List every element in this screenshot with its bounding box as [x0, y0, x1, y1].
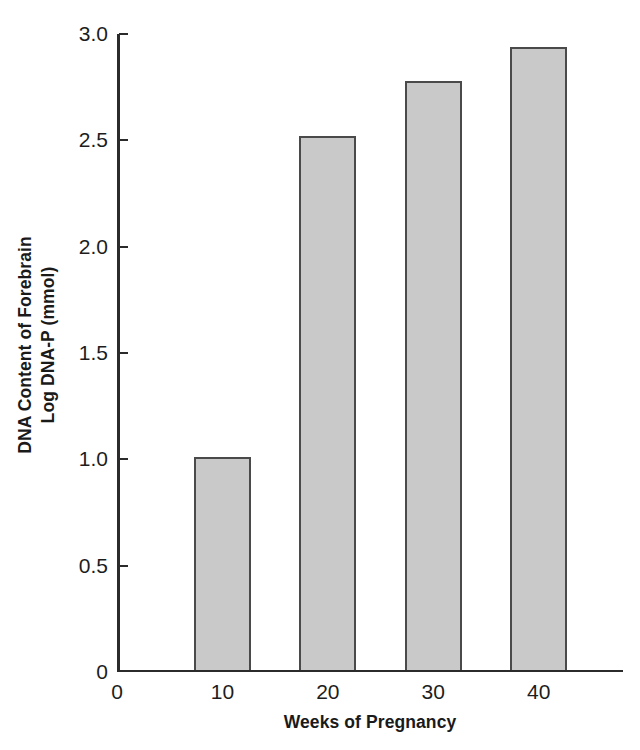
- bar: [299, 136, 356, 670]
- x-tick-label: 40: [527, 680, 550, 704]
- y-tick-label: 0: [96, 660, 108, 684]
- x-tick-label: 10: [211, 680, 234, 704]
- y-tick-mark: [119, 352, 128, 354]
- y-tick-label: 0.5: [79, 554, 108, 578]
- x-tick-0: 0: [116, 661, 118, 672]
- x-axis-title: Weeks of Pregnancy: [117, 712, 623, 733]
- y-tick-mark: [119, 458, 128, 460]
- y-tick-label: 2.0: [79, 235, 108, 259]
- y-tick-mark: [119, 246, 128, 248]
- y-axis-title-line-2: Log DNA-P (mmol): [37, 236, 60, 454]
- y-axis-title: DNA Content of Forebrain Log DNA-P (mmol…: [4, 0, 70, 690]
- y-tick-mark: [119, 565, 128, 567]
- bar-chart-figure: DNA Content of Forebrain Log DNA-P (mmol…: [0, 0, 640, 750]
- bar: [510, 47, 567, 670]
- y-tick-label: 2.5: [79, 128, 108, 152]
- plot-area: 00.51.01.52.02.53.0 010203040: [117, 34, 623, 672]
- y-tick-mark: [119, 139, 128, 141]
- x-tick-label: 30: [422, 680, 445, 704]
- bar: [194, 457, 251, 670]
- bar: [405, 81, 462, 670]
- y-tick-label: 3.0: [79, 22, 108, 46]
- y-tick-mark: [119, 33, 128, 35]
- y-tick-label: 1.5: [79, 341, 108, 365]
- x-tick-label: 0: [111, 680, 123, 704]
- y-tick-label: 1.0: [79, 447, 108, 471]
- y-axis-title-line-1: DNA Content of Forebrain: [14, 236, 37, 454]
- x-tick-label: 20: [316, 680, 339, 704]
